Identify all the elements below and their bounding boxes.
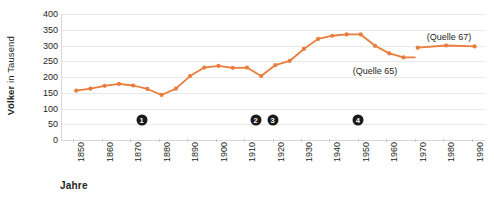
x-tick-label-1920: 1920 xyxy=(277,142,286,162)
x-tick-label-1880: 1880 xyxy=(163,142,172,162)
gridline-0 xyxy=(62,140,486,141)
data-point xyxy=(401,55,405,59)
data-point xyxy=(231,66,235,70)
source-annotation-2: (Quelle 67) xyxy=(427,33,472,42)
y-tick-label-250: 250 xyxy=(28,57,58,66)
y-tick-label-300: 300 xyxy=(28,41,58,50)
data-point xyxy=(145,87,149,91)
y-tick-label-350: 350 xyxy=(28,25,58,34)
x-tick-mark-1930 xyxy=(301,139,302,142)
x-tick-mark-1870 xyxy=(130,139,131,142)
x-tick-label-1890: 1890 xyxy=(191,142,200,162)
x-tick-label-1900: 1900 xyxy=(220,142,229,162)
data-point xyxy=(473,44,477,48)
x-tick-label-1850: 1850 xyxy=(77,142,86,162)
x-tick-mark-1940 xyxy=(329,139,330,142)
x-tick-label-1910: 1910 xyxy=(248,142,257,162)
x-tick-mark-1920 xyxy=(273,139,274,142)
x-tick-mark-1910 xyxy=(244,139,245,142)
x-tick-label-1870: 1870 xyxy=(134,142,143,162)
y-axis-title: Völker in Tausend xyxy=(0,0,22,152)
data-point xyxy=(117,82,121,86)
data-point xyxy=(88,87,92,91)
data-point xyxy=(202,65,206,69)
x-tick-mark-1990 xyxy=(472,139,473,142)
event-marker-3[interactable]: 3 xyxy=(267,115,278,126)
data-point xyxy=(344,32,348,36)
y-tick-label-200: 200 xyxy=(28,73,58,82)
source-annotation-1: (Quelle 65) xyxy=(353,67,398,76)
data-point xyxy=(259,74,263,78)
event-marker-4[interactable]: 4 xyxy=(352,115,363,126)
x-tick-mark-1880 xyxy=(159,139,160,142)
data-point xyxy=(373,44,377,48)
y-axis-title-light: in Tausend xyxy=(5,36,16,86)
data-point xyxy=(387,51,391,55)
x-tick-mark-1860 xyxy=(102,139,103,142)
data-point xyxy=(74,88,78,92)
data-point xyxy=(216,64,220,68)
x-tick-label-1930: 1930 xyxy=(305,142,314,162)
data-point xyxy=(273,63,277,67)
x-tick-label-1940: 1940 xyxy=(333,142,342,162)
x-tick-label-1960: 1960 xyxy=(390,142,399,162)
data-point xyxy=(131,83,135,87)
x-tick-mark-1980 xyxy=(443,139,444,142)
series-line-1 xyxy=(76,34,415,94)
x-tick-mark-1890 xyxy=(187,139,188,142)
data-point xyxy=(416,46,420,50)
data-point xyxy=(316,37,320,41)
data-point xyxy=(174,87,178,91)
data-point xyxy=(160,93,164,97)
event-marker-1[interactable]: 1 xyxy=(136,115,147,126)
x-tick-mark-1960 xyxy=(386,139,387,142)
x-tick-mark-1900 xyxy=(216,139,217,142)
data-point xyxy=(444,43,448,47)
x-tick-label-1980: 1980 xyxy=(447,142,456,162)
y-tick-label-100: 100 xyxy=(28,104,58,113)
x-tick-mark-1850 xyxy=(73,139,74,142)
data-point xyxy=(330,34,334,38)
x-axis-tick-labels: 1850186018701880189019001910192019301940… xyxy=(62,142,486,178)
x-axis-title: Jahre xyxy=(60,180,88,191)
x-tick-label-1950: 1950 xyxy=(362,142,371,162)
y-axis-title-strong: Völker xyxy=(5,86,16,116)
y-tick-label-0: 0 xyxy=(28,136,58,145)
data-point xyxy=(302,47,306,51)
data-point xyxy=(245,65,249,69)
data-point xyxy=(103,84,107,88)
y-tick-label-50: 50 xyxy=(28,120,58,129)
data-point xyxy=(359,32,363,36)
x-tick-label-1860: 1860 xyxy=(106,142,115,162)
data-point xyxy=(288,59,292,63)
line-chart: Völker in Tausend 4003503002502001501005… xyxy=(0,0,494,200)
x-tick-label-1970: 1970 xyxy=(419,142,428,162)
event-marker-2[interactable]: 2 xyxy=(250,115,261,126)
y-tick-label-150: 150 xyxy=(28,88,58,97)
x-tick-mark-1950 xyxy=(358,139,359,142)
y-axis-tick-labels: 400350300250200150100500 xyxy=(26,14,58,140)
data-point xyxy=(188,74,192,78)
x-tick-label-1990: 1990 xyxy=(476,142,485,162)
y-tick-label-400: 400 xyxy=(28,10,58,19)
x-tick-mark-1970 xyxy=(415,139,416,142)
